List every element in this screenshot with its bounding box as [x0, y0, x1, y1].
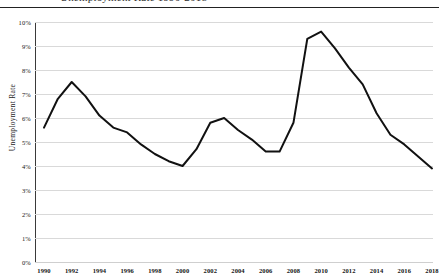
x-tick-label: 2000 — [176, 267, 189, 274]
x-tick-label: 2018 — [425, 267, 438, 274]
page-title: Unemployment Rate 1990-2018 — [60, 0, 207, 3]
y-tick-label: 9% — [22, 43, 31, 50]
y-tick-label: 3% — [22, 187, 31, 194]
series-line-unemployment-rate — [44, 32, 432, 169]
series-line-chart — [35, 22, 433, 262]
x-tick-label: 1992 — [65, 267, 78, 274]
x-tick-label: 2006 — [259, 267, 272, 274]
y-tick-label: 2% — [22, 211, 31, 218]
x-tick-label: 2002 — [204, 267, 217, 274]
y-tick-label: 7% — [22, 91, 31, 98]
cropped-title-strip: Unemployment Rate 1990-2018 — [0, 0, 439, 7]
y-tick-label: 5% — [22, 139, 31, 146]
y-tick-label: 6% — [22, 115, 31, 122]
y-tick-label: 4% — [22, 163, 31, 170]
gridline-0 — [35, 262, 433, 263]
x-tick-label: 1990 — [37, 267, 50, 274]
x-tick-label: 1996 — [120, 267, 133, 274]
x-tick-label: 2010 — [314, 267, 327, 274]
x-tick-label: 1998 — [148, 267, 161, 274]
y-tick-label: 1% — [22, 235, 31, 242]
x-tick-label: 2012 — [342, 267, 355, 274]
x-tick-label: 2008 — [287, 267, 300, 274]
y-axis-title: Unemployment Rate — [8, 68, 17, 168]
x-tick-label: 1994 — [93, 267, 106, 274]
x-tick-label: 2016 — [398, 267, 411, 274]
y-tick-label: 10% — [18, 19, 31, 26]
x-tick-label: 2014 — [370, 267, 383, 274]
chart-figure: Unemployment Rate 10%9%8%7%6%5%4%3%2%1%0… — [0, 8, 439, 278]
y-tick-label: 8% — [22, 67, 31, 74]
y-tick-label: 0% — [22, 259, 31, 266]
x-tick-label: 2004 — [231, 267, 244, 274]
plot-area: 10%9%8%7%6%5%4%3%2%1%0% 1990199219941996… — [35, 22, 433, 262]
